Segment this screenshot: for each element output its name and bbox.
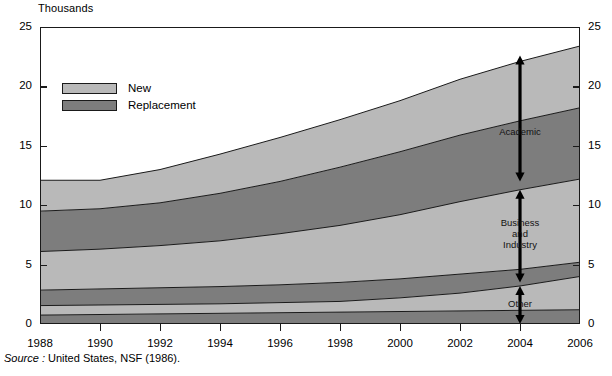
x-tick-mark: [400, 324, 401, 331]
y-tick-mark: [40, 86, 47, 87]
y-tick-label-left: 5: [6, 258, 32, 270]
y-tick-label-left: 0: [6, 317, 32, 329]
x-tick-label: 2002: [440, 337, 480, 349]
annotation-label-other: Other: [480, 298, 560, 309]
x-tick-mark: [160, 324, 161, 331]
annotation-label-line: Industry: [480, 239, 560, 250]
legend-swatch-replacement: [62, 100, 117, 111]
y-tick-mark: [573, 265, 580, 266]
x-tick-label: 1988: [20, 337, 60, 349]
legend-label-new: New: [128, 83, 151, 94]
plot-area: [40, 27, 580, 324]
annotation-label-line: Business: [480, 217, 560, 228]
source-note: Source : United States, NSF (1986).: [4, 352, 180, 364]
x-tick-label: 2006: [560, 337, 600, 349]
y-axis-title: Thousands: [38, 2, 93, 14]
y-tick-label-left: 10: [6, 198, 32, 210]
annotation-label-business: BusinessandIndustry: [480, 217, 560, 250]
legend-swatch-new: [62, 83, 117, 94]
x-tick-label: 1996: [260, 337, 300, 349]
legend-item-new: New: [62, 82, 196, 95]
x-tick-mark: [280, 324, 281, 331]
x-tick-mark: [460, 324, 461, 331]
x-tick-label: 1990: [80, 337, 120, 349]
y-tick-mark: [40, 205, 47, 206]
x-tick-label: 1998: [320, 337, 360, 349]
x-tick-mark: [340, 324, 341, 331]
source-text: United States, NSF (1986).: [48, 352, 180, 364]
y-tick-mark: [40, 146, 47, 147]
annotation-label-line: Academic: [480, 126, 560, 137]
y-tick-label-right: 20: [588, 79, 612, 91]
y-tick-mark: [573, 146, 580, 147]
x-tick-label: 1992: [140, 337, 180, 349]
x-tick-mark: [100, 324, 101, 331]
y-tick-label-left: 20: [6, 79, 32, 91]
chart-figure: Thousands 0510152025 0510152025 19881990…: [0, 0, 612, 376]
legend-label-replacement: Replacement: [128, 100, 196, 111]
y-tick-label-right: 10: [588, 198, 612, 210]
x-tick-label: 2004: [500, 337, 540, 349]
y-tick-label-left: 15: [6, 139, 32, 151]
y-tick-mark: [40, 265, 47, 266]
y-tick-label-right: 15: [588, 139, 612, 151]
x-tick-mark: [520, 324, 521, 331]
y-tick-mark: [573, 205, 580, 206]
y-tick-mark: [573, 86, 580, 87]
x-tick-label: 1994: [200, 337, 240, 349]
x-tick-mark: [220, 324, 221, 331]
arrow-head: [515, 56, 524, 65]
y-tick-label-left: 25: [6, 20, 32, 32]
y-tick-label-right: 25: [588, 20, 612, 32]
legend-item-replacement: Replacement: [62, 99, 196, 112]
source-prefix: Source :: [4, 352, 45, 364]
y-tick-label-right: 5: [588, 258, 612, 270]
annotation-label-line: and: [480, 228, 560, 239]
annotation-label-line: Other: [480, 298, 560, 309]
stacked-area-svg: [40, 27, 580, 324]
y-tick-label-right: 0: [588, 317, 612, 329]
x-tick-label: 2000: [380, 337, 420, 349]
legend: New Replacement: [62, 82, 196, 116]
annotation-label-academic: Academic: [480, 126, 560, 137]
